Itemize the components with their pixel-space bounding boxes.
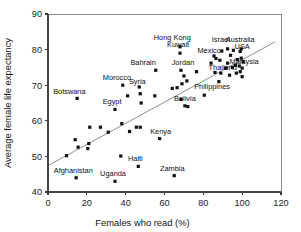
data-point: [183, 104, 186, 107]
data-point-label: Haiti: [128, 154, 143, 163]
data-point-label: Morocco: [103, 73, 131, 82]
data-point-label: Kuwait: [167, 40, 189, 49]
data-point: [76, 97, 79, 100]
x-tick-label: 0: [45, 198, 50, 208]
data-point: [203, 94, 206, 97]
x-tick-label: 60: [159, 198, 169, 208]
data-point-label: Kenya: [150, 127, 172, 136]
data-point: [113, 180, 116, 183]
data-point: [87, 142, 90, 145]
data-point-label: Bahrain: [130, 58, 155, 67]
data-point: [173, 174, 176, 177]
scatter-chart: 405060708090020406080100120Hong KongKuwa…: [0, 0, 301, 232]
data-point: [140, 101, 143, 104]
data-point-label: Zambia: [160, 164, 186, 173]
data-point-label: México: [197, 46, 220, 55]
data-point: [228, 74, 231, 77]
data-point: [171, 87, 174, 90]
data-point-label: USA: [235, 42, 250, 51]
data-point: [75, 176, 78, 179]
data-point: [65, 154, 68, 157]
data-point: [176, 86, 179, 89]
data-point-label: Philippines: [194, 82, 230, 91]
data-point: [154, 69, 157, 72]
data-point: [178, 52, 181, 55]
data-point: [180, 82, 183, 85]
x-axis-title: Females who read (%): [95, 217, 189, 228]
data-point: [135, 126, 138, 129]
data-point: [158, 137, 161, 140]
data-point-label: Bolivia: [174, 94, 197, 103]
y-tick-label: 70: [32, 81, 42, 91]
data-point-label: Botswana: [53, 87, 86, 96]
data-point: [139, 92, 142, 95]
data-point: [195, 70, 198, 73]
data-point: [119, 154, 122, 157]
data-point: [241, 75, 244, 78]
data-point: [153, 94, 156, 97]
data-point: [99, 126, 102, 129]
data-point: [86, 147, 89, 150]
data-point: [226, 47, 229, 50]
data-point-label: Thailand: [209, 63, 237, 72]
x-tick-label: 40: [121, 198, 131, 208]
y-tick-label: 90: [32, 9, 42, 19]
y-axis-title: Average female life expectancy: [2, 38, 13, 168]
data-point: [179, 69, 182, 72]
x-tick-label: 100: [234, 198, 249, 208]
chart-canvas: 405060708090020406080100120Hong KongKuwa…: [0, 0, 301, 232]
data-point: [218, 59, 221, 62]
data-point: [185, 79, 188, 82]
data-point: [128, 130, 131, 133]
data-point: [107, 131, 110, 134]
data-point: [138, 85, 141, 88]
data-point: [88, 126, 91, 129]
data-point: [182, 74, 185, 77]
x-tick-label: 20: [82, 198, 92, 208]
x-tick-label: 120: [273, 198, 288, 208]
data-point-label: Jordan: [172, 58, 195, 67]
x-tick-label: 80: [198, 198, 208, 208]
y-tick-label: 40: [32, 187, 42, 197]
data-point: [241, 67, 244, 70]
data-point-label: Syria: [129, 77, 147, 86]
data-point: [120, 122, 123, 125]
data-point: [121, 84, 124, 87]
data-point-label: Afghanistan: [54, 166, 93, 175]
y-tick-label: 60: [32, 116, 42, 126]
data-point-label: Uganda: [100, 169, 127, 178]
data-point: [113, 108, 116, 111]
y-tick-label: 80: [32, 45, 42, 55]
data-point: [139, 126, 142, 129]
data-point: [77, 146, 80, 149]
data-point-label: Egypt: [103, 97, 122, 106]
y-tick-label: 50: [32, 152, 42, 162]
data-point: [74, 138, 77, 141]
data-point: [239, 70, 242, 73]
data-point: [126, 94, 129, 97]
data-point: [137, 165, 140, 168]
data-point: [186, 105, 189, 108]
